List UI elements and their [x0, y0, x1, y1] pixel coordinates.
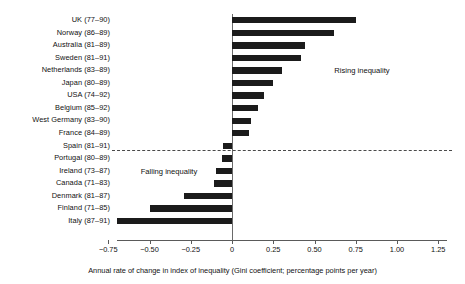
table-row: France (84–89): [0, 127, 465, 140]
annotation-rising-inequality: Rising inequality: [334, 66, 389, 75]
bar: [216, 168, 232, 174]
bar: [232, 118, 251, 124]
table-row: USA (74–92): [0, 89, 465, 102]
table-row: UK (77–90): [0, 14, 465, 27]
x-axis-tick-label: 0.75: [333, 245, 379, 254]
x-axis-tick: [150, 240, 151, 244]
x-axis-tick-label: 0.50: [292, 245, 338, 254]
bar: [232, 80, 273, 86]
table-row: Japan (80–89): [0, 77, 465, 90]
table-row: Netherlands (83–89): [0, 64, 465, 77]
x-axis-title: Annual rate of change in index of inequa…: [0, 266, 465, 275]
table-row: Ireland (73–87): [0, 165, 465, 178]
table-row: Finland (71–85): [0, 202, 465, 215]
x-axis-tick-label: 1.00: [374, 245, 420, 254]
bar: [184, 193, 232, 199]
bar: [223, 143, 232, 149]
category-label: Netherlands (83–89): [0, 64, 110, 77]
x-axis-tick: [108, 240, 109, 244]
x-axis-tick-label: −0.50: [127, 245, 173, 254]
x-axis-tick: [232, 240, 233, 244]
table-row: Sweden (81–91): [0, 52, 465, 65]
x-axis-tick: [356, 240, 357, 244]
category-label: Japan (80–89): [0, 77, 110, 90]
table-row: Norway (86–89): [0, 27, 465, 40]
bar: [150, 205, 233, 211]
table-row: Spain (81–91): [0, 140, 465, 153]
x-axis-tick: [397, 240, 398, 244]
x-axis-tick: [438, 240, 439, 244]
table-row: Portugal (80–89): [0, 152, 465, 165]
annotation-falling-inequality: Falling inequality: [141, 167, 198, 176]
category-label: France (84–89): [0, 127, 110, 140]
category-label: Norway (86–89): [0, 27, 110, 40]
category-label: Canada (71–83): [0, 177, 110, 190]
x-axis-tick: [315, 240, 316, 244]
bar: [232, 17, 356, 23]
table-row: Denmark (81–87): [0, 190, 465, 203]
category-label: Italy (87–91): [0, 215, 110, 228]
bar: [232, 92, 264, 98]
x-axis-tick-label: 0.25: [250, 245, 296, 254]
bar-rows: UK (77–90)Norway (86–89)Australia (81–89…: [0, 14, 465, 240]
table-row: Canada (71–83): [0, 177, 465, 190]
x-axis-tick-label: −0.75: [85, 245, 131, 254]
bar: [232, 67, 282, 73]
bar: [222, 155, 232, 161]
table-row: Belgium (85–92): [0, 102, 465, 115]
bar: [232, 105, 258, 111]
bar: [117, 218, 233, 224]
table-row: Italy (87–91): [0, 215, 465, 228]
bar: [232, 55, 301, 61]
x-axis-tick-label: −0.25: [168, 245, 214, 254]
category-label: Australia (81–89): [0, 39, 110, 52]
table-row: West Germany (83–90): [0, 114, 465, 127]
x-axis-tick: [191, 240, 192, 244]
bar: [232, 30, 334, 36]
bar: [214, 180, 232, 186]
x-axis-tick-label: 0: [209, 245, 255, 254]
x-axis-tick: [273, 240, 274, 244]
category-label: Ireland (73–87): [0, 165, 110, 178]
bar: [232, 130, 249, 136]
category-label: Finland (71–85): [0, 202, 110, 215]
category-label: Denmark (81–87): [0, 190, 110, 203]
category-label: Sweden (81–91): [0, 52, 110, 65]
x-axis-tick-label: 1.25: [415, 245, 461, 254]
category-label: USA (74–92): [0, 89, 110, 102]
table-row: Australia (81–89): [0, 39, 465, 52]
inequality-bar-chart: UK (77–90)Norway (86–89)Australia (81–89…: [0, 0, 465, 284]
category-label: Belgium (85–92): [0, 102, 110, 115]
category-label: UK (77–90): [0, 14, 110, 27]
category-label: West Germany (83–90): [0, 114, 110, 127]
category-label: Spain (81–91): [0, 140, 110, 153]
category-label: Portugal (80–89): [0, 152, 110, 165]
bar: [232, 42, 305, 48]
